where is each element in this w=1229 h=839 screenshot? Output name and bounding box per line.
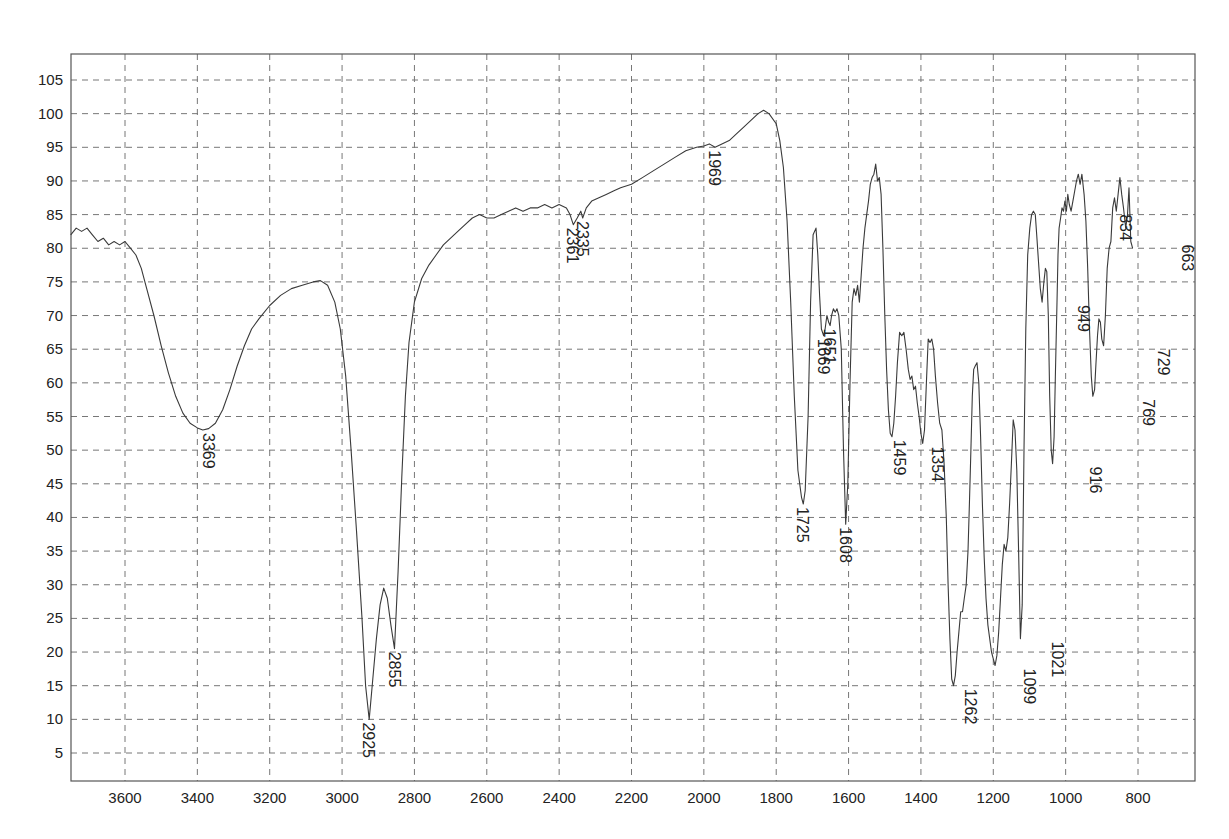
peak-label: 1608: [837, 527, 854, 563]
x-tick-label: 800: [1125, 789, 1150, 806]
y-tick-label: 5: [55, 744, 63, 761]
x-tick-label: 2800: [398, 789, 431, 806]
y-tick-label: 35: [46, 542, 63, 559]
peak-label: 2855: [386, 652, 403, 688]
y-tick-label: 75: [46, 273, 63, 290]
peak-label: 1725: [794, 507, 811, 543]
peak-label: 1459: [891, 440, 908, 476]
peak-label: 3369: [200, 433, 217, 469]
peak-label: 916: [1087, 467, 1104, 494]
chart-background: [0, 0, 1229, 839]
y-tick-label: 85: [46, 206, 63, 223]
peak-label: 949: [1075, 305, 1092, 332]
peak-label: 769: [1140, 399, 1157, 426]
peak-label: 663: [1179, 245, 1196, 272]
y-tick-label: 10: [46, 710, 63, 727]
y-tick-label: 65: [46, 340, 63, 357]
y-tick-label: 70: [46, 307, 63, 324]
x-tick-label: 2000: [687, 789, 720, 806]
y-tick-label: 105: [38, 71, 63, 88]
y-tick-label: 55: [46, 408, 63, 425]
ir-spectrum-chart: 5101520253035404550556065707580859095100…: [0, 0, 1229, 839]
y-tick-label: 60: [46, 374, 63, 391]
y-tick-label: 25: [46, 609, 63, 626]
y-tick-label: 95: [46, 138, 63, 155]
y-tick-label: 90: [46, 172, 63, 189]
x-tick-label: 1600: [832, 789, 865, 806]
peak-label: 1354: [929, 446, 946, 482]
x-tick-label: 3000: [325, 789, 358, 806]
x-tick-label: 3200: [253, 789, 286, 806]
x-tick-label: 3600: [108, 789, 141, 806]
x-tick-label: 1200: [977, 789, 1010, 806]
x-tick-label: 1000: [1049, 789, 1082, 806]
peak-label: 1021: [1049, 642, 1066, 678]
y-tick-label: 15: [46, 677, 63, 694]
y-tick-label: 50: [46, 441, 63, 458]
x-tick-label: 1800: [760, 789, 793, 806]
peak-label: 1969: [706, 150, 723, 186]
y-tick-label: 80: [46, 239, 63, 256]
peak-label: 1651: [821, 329, 838, 365]
peak-label: 2335: [574, 221, 591, 257]
x-axis: 3600340032003000280026002400220020001800…: [108, 789, 1150, 806]
x-tick-label: 2400: [542, 789, 575, 806]
x-tick-label: 1400: [904, 789, 937, 806]
x-tick-label: 3400: [181, 789, 214, 806]
y-tick-label: 40: [46, 508, 63, 525]
y-tick-label: 30: [46, 576, 63, 593]
peak-label: 834: [1117, 214, 1134, 241]
x-tick-label: 2600: [470, 789, 503, 806]
y-tick-label: 100: [38, 105, 63, 122]
peak-label: 2925: [360, 722, 377, 758]
x-tick-label: 2200: [615, 789, 648, 806]
peak-label: 1099: [1021, 669, 1038, 705]
peak-label: 1262: [962, 689, 979, 725]
peak-label: 729: [1155, 349, 1172, 376]
y-tick-label: 45: [46, 475, 63, 492]
y-tick-label: 20: [46, 643, 63, 660]
